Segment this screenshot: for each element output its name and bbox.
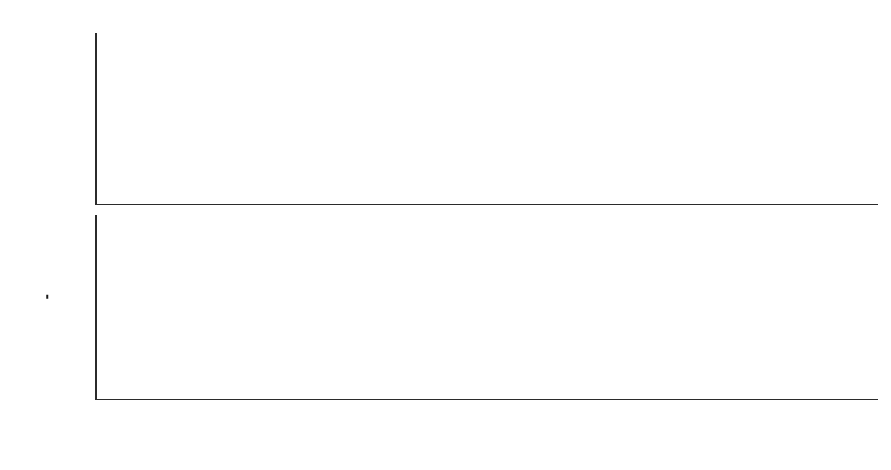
x-axis-line-angle xyxy=(95,399,878,401)
y-axis-line-angle xyxy=(95,215,97,400)
y-axis-line-epsilon xyxy=(95,33,97,205)
plot-area-angle xyxy=(95,215,878,400)
degrees-per-radian-fraction xyxy=(45,295,49,299)
panel-epsilon xyxy=(0,0,891,205)
convergence-figure xyxy=(0,0,891,470)
panel-angle xyxy=(0,205,891,470)
fraction-bar xyxy=(46,295,48,299)
y-axis-title-angle xyxy=(45,212,49,402)
plot-area-epsilon xyxy=(95,33,878,205)
